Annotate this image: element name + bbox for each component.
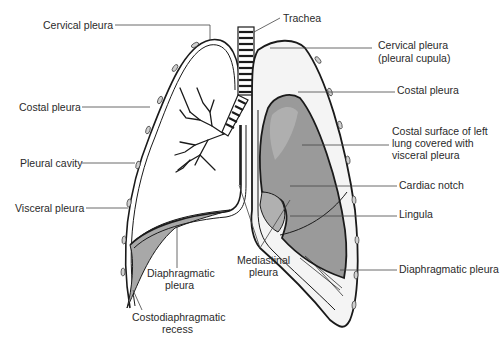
label-costal-surface-1: Costal surface of left [392,125,488,137]
label-costal-surface-3: visceral pleura [392,149,460,161]
bronchial-tree [175,88,224,172]
label-cervical-pleura-left-1: Cervical pleura [378,39,448,51]
label-costal-pleura-right: Costal pleura [19,101,81,113]
label-visceral-pleura: Visceral pleura [15,202,84,214]
label-trachea: Trachea [283,12,321,24]
label-cervical-pleura-left-2: (pleural cupula) [378,52,450,64]
label-mediastinal-pleura-2: pleura [249,266,278,278]
label-diaphragmatic-pleura-left: Diaphragmatic pleura [399,263,499,275]
label-diaphragmatic-pleura-right-1: Diaphragmatic [147,267,215,279]
label-cervical-pleura-right: Cervical pleura [43,19,113,31]
left-pleural-sac [251,41,359,327]
label-diaphragmatic-pleura-right-2: pleura [165,279,194,291]
label-costal-surface-2: lung covered with [392,137,474,149]
label-cardiac-notch: Cardiac notch [399,179,464,191]
label-pleural-cavity: Pleural cavity [20,157,83,169]
label-costodiaphragmatic-1: Costodiaphragmatic [132,311,225,323]
label-costodiaphragmatic-2: recess [162,323,193,335]
label-costal-pleura-left: Costal pleura [397,84,459,96]
label-mediastinal-pleura-1: Mediastinal [237,254,290,266]
pleura-diagram: Cervical pleura Costal pleura Pleural ca… [0,0,503,347]
label-lingula: Lingula [399,208,433,220]
